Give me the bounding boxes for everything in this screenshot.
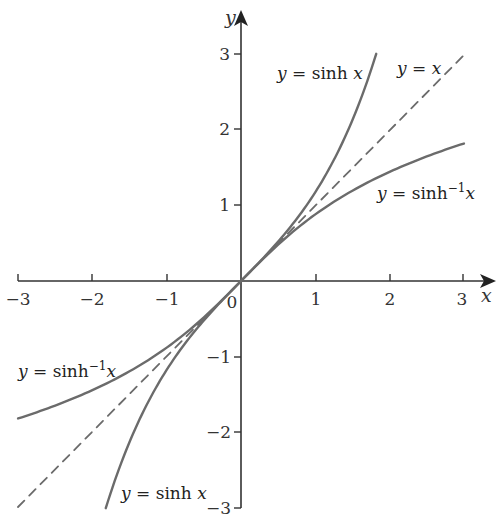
label-sinh-top: y = sinh x <box>276 63 363 83</box>
x-tick-label: 1 <box>311 289 322 309</box>
label-asinh-right: y = sinh−1x <box>376 181 475 203</box>
label-asinh-left: y = sinh−1x <box>17 359 116 381</box>
y-tick-label: −3 <box>206 498 231 518</box>
y-axis-label: y <box>224 6 236 28</box>
y-tick-label: 3 <box>219 44 230 64</box>
y-tick-label: 2 <box>219 119 230 139</box>
y-tick-label: 1 <box>219 195 230 215</box>
y-tick-label: −2 <box>206 422 231 442</box>
x-tick-label: −3 <box>5 289 30 309</box>
x-axis-label: x <box>481 284 492 306</box>
label-sinh-bottom: y = sinh x <box>120 483 207 503</box>
x-tick-label: −2 <box>79 289 104 309</box>
label-y-equals-x: y = x <box>396 58 442 78</box>
x-tick-label: 2 <box>385 289 396 309</box>
x-tick-label: 3 <box>457 289 468 309</box>
y-tick-label: −1 <box>206 347 231 367</box>
x-tick-label: −1 <box>154 289 179 309</box>
chart-canvas: −3 −2 −1 0 1 2 3 3 2 1 −1 −2 −3 x y y = … <box>0 0 502 519</box>
